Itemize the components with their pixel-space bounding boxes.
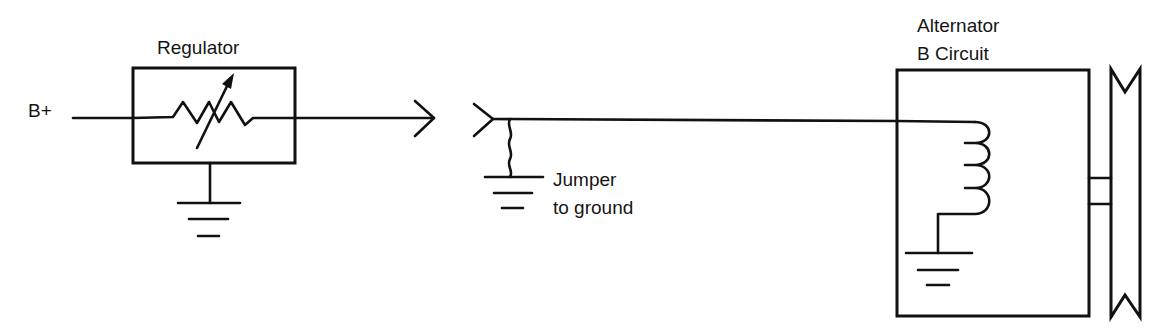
alternator-ground-icon xyxy=(906,253,972,285)
field-wire xyxy=(493,119,975,122)
female-connector-icon xyxy=(474,104,493,136)
field-coil-icon xyxy=(938,122,989,253)
alternator-box xyxy=(897,70,1089,316)
alternator-label: Alternator xyxy=(917,12,999,40)
regulator-label: Regulator xyxy=(157,34,239,62)
jumper-wire-icon xyxy=(509,119,511,177)
variable-resistor-icon xyxy=(133,73,295,148)
battery-positive-label: B+ xyxy=(28,97,52,125)
pulley-icon xyxy=(1111,69,1140,317)
regulator-ground-icon xyxy=(178,163,240,236)
jumper-label: Jumper xyxy=(553,166,616,194)
jumper-ground-icon xyxy=(485,177,543,208)
shaft-icon xyxy=(1089,178,1111,204)
jumper-to-ground-label: to ground xyxy=(553,194,633,222)
alternator-circuit-label: B Circuit xyxy=(917,40,989,68)
